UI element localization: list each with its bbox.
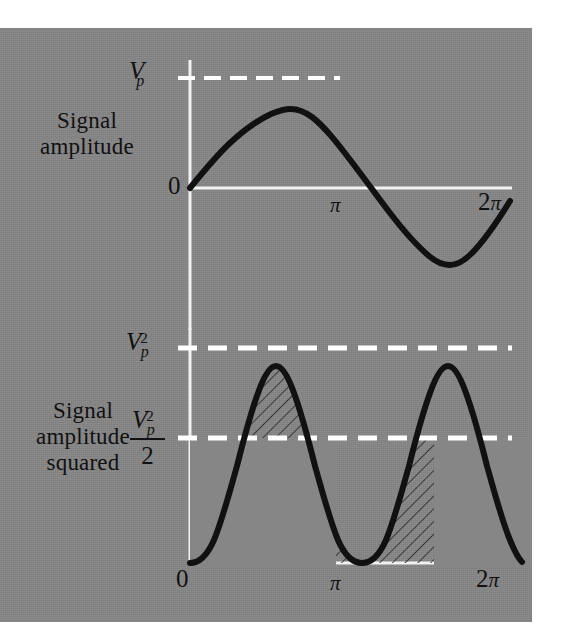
fraction-bar — [130, 438, 165, 440]
bottom-xtick-2pi-label: 2π — [476, 565, 499, 593]
bottom-xtick-zero-label: 0 — [176, 565, 189, 593]
top-xtick-2pi-pi: π — [491, 191, 502, 215]
top-ytick-zero-label: 0 — [168, 172, 181, 200]
top-caption-line2: amplitude — [12, 134, 162, 160]
bottom-xtick-zero-value: 0 — [176, 565, 189, 592]
bottom-ytick-half-sub: p — [147, 421, 155, 438]
top-panel — [178, 60, 512, 330]
top-panel-axis-caption: Signal amplitude — [12, 108, 162, 160]
top-xtick-pi-value: π — [330, 193, 341, 217]
figure-root: Signal amplitude Signal amplitude square… — [0, 0, 566, 638]
bottom-ytick-half-denominator: 2 — [130, 441, 165, 470]
top-ytick-peak-sub: p — [136, 72, 144, 89]
bottom-xtick-pi-value: π — [330, 571, 341, 595]
bottom-ytick-half-var: V — [132, 406, 147, 433]
bottom-ytick-peak-sub: p — [141, 343, 149, 360]
bottom-ytick-peak-label: V2p — [126, 328, 157, 358]
top-ytick-zero-value: 0 — [168, 172, 181, 199]
bottom-ytick-half-label: V2p 2 — [130, 406, 165, 470]
top-ytick-peak-label: Vp — [129, 57, 152, 87]
top-caption-line1: Signal — [12, 108, 162, 134]
top-xtick-2pi-num: 2 — [478, 188, 491, 215]
plot-canvas — [0, 0, 566, 638]
top-xtick-pi-label: π — [330, 190, 341, 218]
bottom-xtick-2pi-num: 2 — [476, 565, 489, 592]
bottom-xtick-2pi-pi: π — [489, 568, 500, 592]
bottom-xtick-pi-label: π — [330, 568, 341, 596]
bottom-panel — [178, 328, 530, 570]
bottom-ytick-peak-var: V — [126, 328, 141, 355]
top-xtick-2pi-label: 2π — [478, 188, 501, 216]
